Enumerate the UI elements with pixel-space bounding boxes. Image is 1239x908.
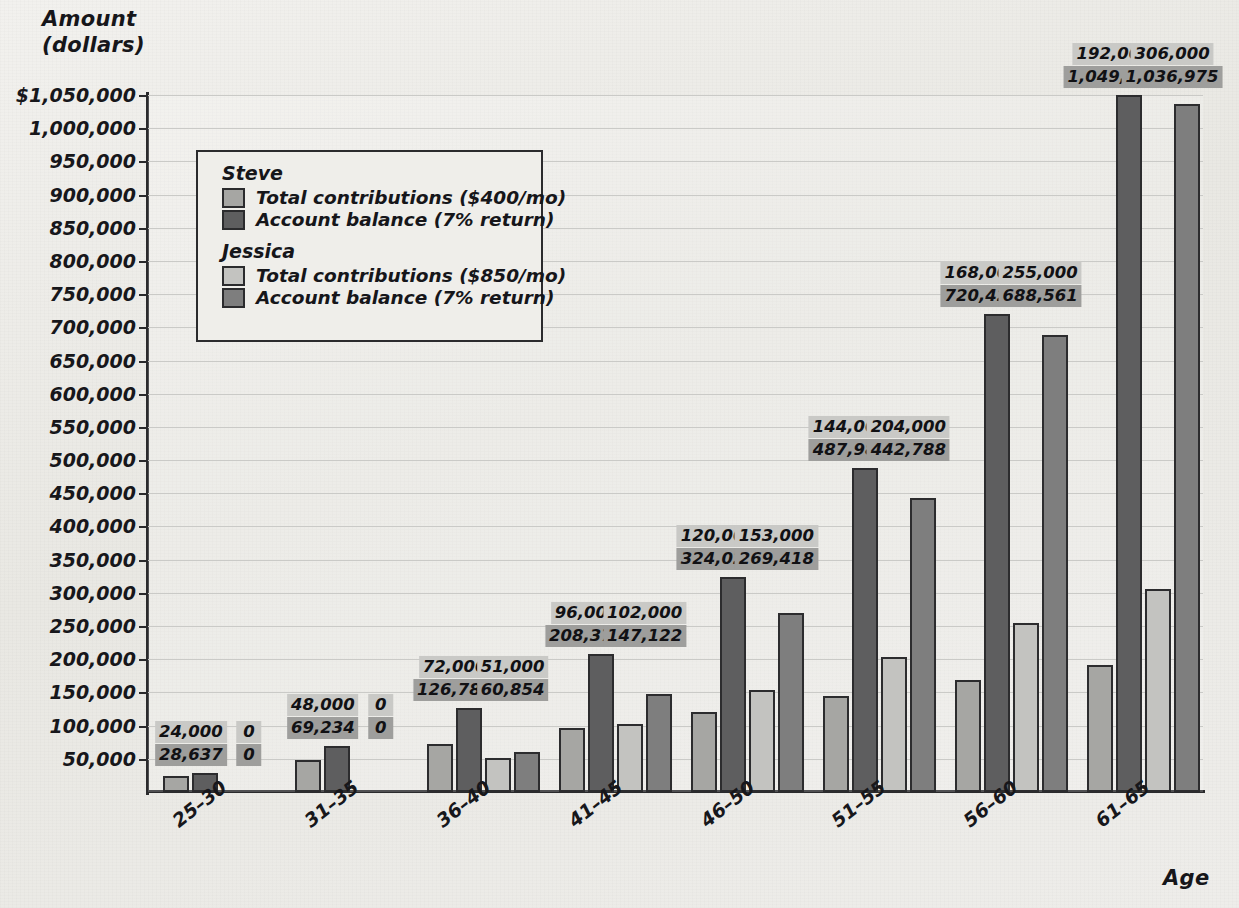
data-label-balance: 442,788: [867, 439, 950, 461]
y-axis-tick-label: 500,000: [49, 449, 136, 471]
y-axis-tick-mark: [139, 128, 148, 130]
data-label-contributions: 153,000: [735, 525, 818, 547]
y-axis-tick-mark: [139, 493, 148, 495]
legend-item-label: Total contributions ($850/mo): [256, 265, 566, 286]
y-axis-tick-label: 900,000: [49, 184, 136, 206]
y-axis-tick-mark: [139, 261, 148, 263]
y-axis-tick-label: 850,000: [49, 217, 136, 239]
data-label-contributions: 24,000: [155, 721, 227, 743]
y-axis-tick-mark: [139, 361, 148, 363]
y-axis-tick-mark: [139, 626, 148, 628]
data-label-balance: 269,418: [735, 548, 818, 570]
legend-item: Total contributions ($400/mo): [222, 187, 541, 208]
legend-item: Account balance (7% return): [222, 209, 541, 230]
y-axis-tick-label: 600,000: [49, 383, 136, 405]
bar: [823, 696, 849, 792]
data-label-contributions: 48,000: [287, 694, 359, 716]
bar: [778, 613, 804, 792]
y-axis-tick-mark: [139, 394, 148, 396]
data-label-contributions: 51,000: [477, 656, 549, 678]
y-axis-tick-label: 250,000: [49, 615, 136, 637]
bar: [1116, 95, 1142, 792]
y-axis-tick-label: 350,000: [49, 549, 136, 571]
y-axis-tick-label: 950,000: [49, 150, 136, 172]
y-axis-tick-label: 550,000: [49, 416, 136, 438]
y-axis-tick-label: 450,000: [49, 482, 136, 504]
y-axis-tick-label: 700,000: [49, 316, 136, 338]
y-axis-tick-label: 800,000: [49, 250, 136, 272]
legend-swatch-s-balance: [222, 210, 245, 230]
bar: [559, 728, 585, 792]
data-label-balance: 28,637: [155, 744, 227, 766]
y-axis-tick-mark: [139, 460, 148, 462]
y-axis-title-line2: (dollars): [42, 33, 145, 57]
y-axis-title-line1: Amount: [42, 7, 136, 31]
data-label-balance: 60,854: [477, 679, 549, 701]
y-axis-tick-label: 150,000: [49, 681, 136, 703]
y-axis-tick-mark: [139, 427, 148, 429]
legend-item-label: Account balance (7% return): [256, 287, 554, 308]
bar: [881, 657, 907, 792]
legend-group-title: Jessica: [222, 240, 541, 262]
y-axis-tick-label: 300,000: [49, 582, 136, 604]
x-axis-title: Age: [1163, 866, 1209, 890]
y-axis-tick-mark: [139, 161, 148, 163]
y-axis-tick-mark: [139, 759, 148, 761]
retirement-savings-bar-chart: Amount(dollars) $1,050,0001,000,000950,0…: [0, 0, 1239, 908]
bar: [1013, 623, 1039, 792]
bar: [1087, 665, 1113, 792]
legend-item-label: Account balance (7% return): [256, 209, 554, 230]
y-axis-tick-label: 1,000,000: [29, 117, 136, 139]
bar: [720, 577, 746, 792]
data-label-balance: 0: [236, 744, 261, 766]
y-axis-title: Amount(dollars): [42, 6, 145, 58]
y-axis-tick-label: 650,000: [49, 350, 136, 372]
bar: [617, 724, 643, 792]
y-axis-tick-mark: [139, 726, 148, 728]
data-label-balance: 147,122: [603, 625, 686, 647]
chart-legend: SteveTotal contributions ($400/mo)Accoun…: [196, 150, 543, 342]
bar: [646, 694, 672, 792]
y-axis-tick-mark: [139, 560, 148, 562]
y-axis-tick-mark: [139, 526, 148, 528]
data-label-contributions: 255,000: [999, 262, 1082, 284]
data-label-balance: 69,234: [287, 717, 359, 739]
legend-swatch-s-contrib: [222, 188, 245, 208]
y-axis-tick-mark: [139, 659, 148, 661]
bar: [427, 744, 453, 792]
y-axis-tick-mark: [139, 195, 148, 197]
y-axis-tick-mark: [139, 95, 148, 97]
bar: [749, 690, 775, 792]
bar: [691, 712, 717, 792]
bar: [514, 752, 540, 792]
data-label-balance: 1,036,975: [1122, 66, 1223, 88]
data-label-contributions: 306,000: [1130, 43, 1213, 65]
y-axis-tick-label: $1,050,000: [16, 84, 136, 106]
data-label-contributions: 0: [236, 721, 261, 743]
data-label-contributions: 102,000: [603, 602, 686, 624]
y-axis-tick-mark: [139, 692, 148, 694]
legend-item: Account balance (7% return): [222, 287, 541, 308]
bar: [955, 680, 981, 792]
bar: [910, 498, 936, 792]
y-axis-tick-label: 50,000: [63, 748, 136, 770]
data-label-balance: 0: [368, 717, 393, 739]
y-axis-tick-mark: [139, 294, 148, 296]
legend-swatch-j-contrib: [222, 266, 245, 286]
y-axis-tick-mark: [139, 593, 148, 595]
bar: [1145, 589, 1171, 792]
data-label-balance: 688,561: [999, 285, 1082, 307]
legend-swatch-j-balance: [222, 288, 245, 308]
bar: [984, 314, 1010, 792]
y-axis-tick-mark: [139, 228, 148, 230]
bar: [1174, 104, 1200, 792]
data-label-contributions: 0: [368, 694, 393, 716]
bar: [163, 776, 189, 792]
legend-spacer: [222, 231, 541, 240]
bar: [588, 654, 614, 792]
y-axis-tick-label: 200,000: [49, 648, 136, 670]
y-axis-tick-label: 400,000: [49, 515, 136, 537]
legend-group-title: Steve: [222, 162, 541, 184]
y-axis-tick-mark: [139, 327, 148, 329]
y-axis-tick-label: 100,000: [49, 715, 136, 737]
